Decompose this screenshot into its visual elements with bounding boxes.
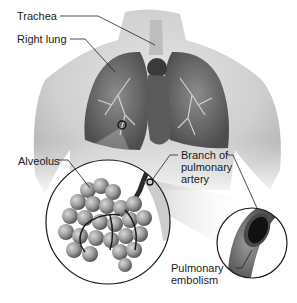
illustration xyxy=(0,0,297,303)
branch-label-3: artery xyxy=(181,173,209,185)
embolism-label-1: Pulmonary xyxy=(171,262,224,274)
diagram-canvas: Trachea Right lung Alveolus Branch of pu… xyxy=(0,0,297,303)
right-lung-label: Right lung xyxy=(17,33,67,45)
alveolus-label: Alveolus xyxy=(18,155,60,167)
lungs xyxy=(84,20,229,150)
heart xyxy=(147,75,171,145)
trachea xyxy=(149,20,163,55)
branch-label-1: Branch of xyxy=(181,149,228,161)
aorta xyxy=(147,58,167,78)
trachea-label: Trachea xyxy=(17,10,57,22)
embolism-label-2: embolism xyxy=(171,274,218,286)
branch-label-2: pulmonary xyxy=(181,161,232,173)
